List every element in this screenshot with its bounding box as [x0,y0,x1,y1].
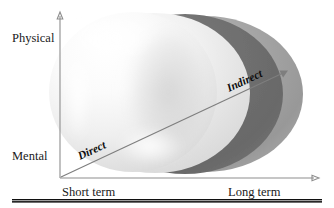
y-axis-bottom-label: Mental [12,149,48,163]
sphere-rim-light [65,51,91,141]
bottom-rule [12,199,322,203]
figure-container: Physical Mental Short term Long term Dir… [0,0,334,208]
concept-diagram: Physical Mental Short term Long term Dir… [0,0,334,208]
bottom-rule-gap [12,200,322,201]
x-axis-right-label: Long term [228,185,281,199]
sphere-specular-highlight [72,17,152,59]
x-axis-left-label: Short term [62,185,115,199]
y-axis-top-label: Physical [12,31,55,45]
